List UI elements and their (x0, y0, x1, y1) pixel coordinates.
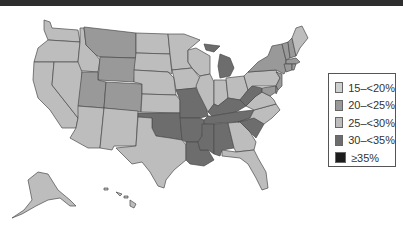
legend-swatch (335, 100, 343, 111)
state-AK[interactable] (12, 172, 76, 218)
legend-swatch (335, 82, 343, 93)
legend-item: 25–<30% (335, 114, 395, 132)
legend-item: 20–<25% (335, 97, 395, 115)
legend-label: ≥35% (351, 152, 379, 164)
legend-label: 25–<30% (348, 117, 395, 129)
state-OR[interactable] (34, 40, 80, 62)
legend-label: 15–<20% (348, 82, 395, 94)
legend-item: 15–<20% (335, 79, 395, 97)
state-RI[interactable] (292, 64, 296, 70)
state-FL[interactable] (222, 150, 268, 190)
state-ND[interactable] (136, 33, 170, 54)
legend: 15–<20% 20–<25% 25–<30% 30–<35% ≥35% (328, 73, 396, 167)
legend-label: 30–<35% (348, 134, 395, 146)
legend-label: 20–<25% (348, 99, 395, 111)
legend-swatch (335, 117, 343, 128)
legend-swatch (335, 135, 343, 146)
state-WY[interactable] (98, 57, 136, 82)
state-HI[interactable] (104, 188, 136, 208)
state-KS[interactable] (141, 94, 180, 113)
state-WA[interactable] (44, 20, 80, 42)
state-CO[interactable] (104, 82, 142, 112)
state-NY[interactable] (248, 44, 286, 74)
legend-item: 30–<35% (335, 132, 395, 150)
legend-item: ≥35% (335, 149, 395, 167)
state-NM[interactable] (100, 108, 138, 150)
legend-swatch (335, 152, 346, 163)
